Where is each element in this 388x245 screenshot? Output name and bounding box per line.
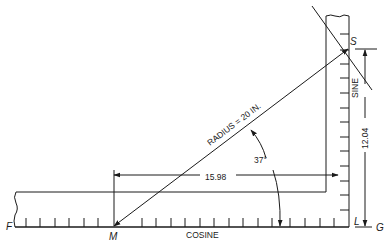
point-g-label: G xyxy=(376,222,384,233)
point-s-label: S xyxy=(350,36,357,47)
sine-scale-ticks xyxy=(340,34,349,210)
point-l-label: L xyxy=(354,216,360,227)
angle-arc-upper xyxy=(251,130,266,158)
sine-value-label: 12.04 xyxy=(360,127,370,149)
cosine-label: COSINE xyxy=(186,230,219,240)
cosine-scale-ticks xyxy=(26,218,334,227)
angle-label: 37° xyxy=(254,155,267,165)
square-outline xyxy=(16,16,326,192)
square-top-break xyxy=(326,15,349,17)
cosine-value-label: 15.98 xyxy=(205,172,227,182)
tangent-line xyxy=(312,6,372,90)
radius-line xyxy=(114,49,348,226)
sine-cosine-diagram: F M S L G COSINE 15.98 37° RADIUS = 20 I… xyxy=(0,0,388,245)
blade-left-break xyxy=(14,192,17,227)
point-f-label: F xyxy=(6,221,13,232)
sine-label: SINE xyxy=(350,78,360,98)
point-m-label: M xyxy=(109,231,118,242)
angle-arc-lower xyxy=(273,170,280,226)
radius-label: RADIUS = 20 IN. xyxy=(205,101,263,148)
